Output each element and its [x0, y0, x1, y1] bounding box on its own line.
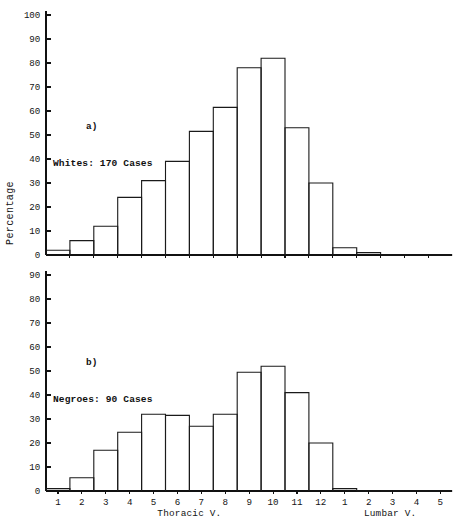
histogram-bar: [94, 450, 118, 491]
y-tick-label: 50: [29, 366, 40, 377]
figure-container: 0102030405060708090100a)Whites: 170 Case…: [0, 0, 476, 525]
y-tick-label: 90: [29, 34, 40, 45]
panel-tag-label: b): [86, 357, 97, 368]
x-axis-title-lumbar: Lumbar V.: [364, 508, 416, 519]
y-tick-label: 10: [29, 462, 40, 473]
y-tick-label: 60: [29, 106, 40, 117]
x-tick-label: 5: [438, 497, 444, 508]
histogram-bar: [70, 478, 94, 491]
x-tick-label: 1: [55, 497, 61, 508]
histogram-bar: [166, 415, 190, 491]
panel-a-whites: 0102030405060708090100a)Whites: 170 Case…: [24, 10, 452, 261]
y-tick-label: 80: [29, 294, 40, 305]
y-tick-label: 60: [29, 342, 40, 353]
histogram-bar: [94, 226, 118, 255]
y-tick-label: 20: [29, 438, 40, 449]
y-tick-label: 0: [35, 486, 40, 497]
x-tick-label: 8: [222, 497, 228, 508]
histogram-bar: [237, 68, 261, 255]
y-tick-label: 100: [24, 10, 40, 21]
y-tick-label: 20: [29, 202, 40, 213]
histogram-bar: [309, 443, 333, 491]
x-tick-label: 4: [414, 497, 420, 508]
histogram-bar: [213, 107, 237, 255]
x-tick-label: 7: [199, 497, 205, 508]
y-axis-title-group: Percentage: [5, 181, 16, 245]
x-tick-label: 9: [246, 497, 252, 508]
y-tick-label: 40: [29, 154, 40, 165]
histogram-bar: [189, 131, 213, 255]
x-tick-label: 3: [103, 497, 109, 508]
histogram-bar: [285, 393, 309, 491]
x-tick-label: 2: [79, 497, 85, 508]
y-tick-label: 30: [29, 414, 40, 425]
panel-tag-label: a): [86, 121, 97, 132]
x-tick-label: 6: [175, 497, 181, 508]
histogram-bar: [261, 58, 285, 255]
histogram-bar: [142, 181, 166, 255]
x-tick-label: 3: [390, 497, 396, 508]
histogram-bar: [189, 426, 213, 491]
x-tick-label: 10: [268, 497, 279, 508]
histogram-bar: [261, 366, 285, 491]
panel-caption-label: Negroes: 90 Cases: [53, 394, 153, 405]
y-tick-label: 0: [35, 250, 40, 261]
histogram-bar: [70, 241, 94, 255]
histogram-bar: [285, 128, 309, 255]
histogram-bar: [142, 414, 166, 491]
x-tick-label: 5: [151, 497, 157, 508]
x-axis-title-thoracic: Thoracic V.: [157, 508, 221, 519]
y-tick-label: 40: [29, 390, 40, 401]
shared-x-axis-labels: 12345678910111212345Thoracic V.Lumbar V.: [55, 491, 443, 519]
histogram-bar: [213, 414, 237, 491]
y-tick-label: 30: [29, 178, 40, 189]
y-tick-label: 90: [29, 270, 40, 281]
panel-b-negroes: 0102030405060708090b)Negroes: 90 Cases: [29, 270, 452, 497]
histogram-bar: [309, 183, 333, 255]
y-tick-label: 70: [29, 318, 40, 329]
x-tick-label: 4: [127, 497, 133, 508]
y-tick-label: 10: [29, 226, 40, 237]
x-tick-label: 12: [315, 497, 326, 508]
histogram-bar: [237, 372, 261, 491]
histogram-bar: [333, 248, 357, 255]
y-tick-label: 80: [29, 58, 40, 69]
histogram-bar: [166, 161, 190, 255]
histogram-bar: [118, 197, 142, 255]
x-tick-label: 2: [366, 497, 372, 508]
y-tick-label: 50: [29, 130, 40, 141]
panel-caption-label: Whites: 170 Cases: [53, 158, 153, 169]
histogram-bar: [118, 432, 142, 491]
histogram-figure: 0102030405060708090100a)Whites: 170 Case…: [0, 0, 476, 525]
y-tick-label: 70: [29, 82, 40, 93]
x-tick-label: 1: [342, 497, 348, 508]
x-tick-label: 11: [291, 497, 303, 508]
y-axis-title: Percentage: [5, 181, 16, 245]
